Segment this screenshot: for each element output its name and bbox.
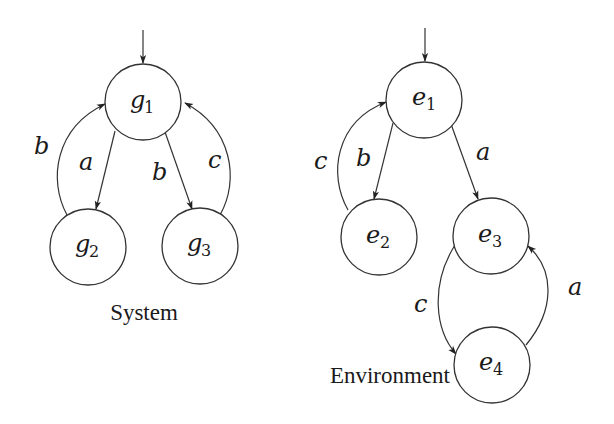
edge-label-e3-e4: c (414, 290, 427, 318)
edge-e1-e3 (451, 124, 478, 199)
edge-label-g1-g3: b (152, 158, 167, 186)
edge-e4-e3 (526, 246, 548, 345)
svg-text:3: 3 (492, 232, 502, 251)
state-e2-label: e (366, 221, 380, 249)
state-e3-label: e (478, 220, 492, 248)
edge-label-g2-g1: b (34, 132, 49, 160)
edge-e3-e4 (438, 245, 456, 354)
state-e4: e 4 (454, 327, 530, 403)
system-automaton: b a b c g 1 g 2 g 3 System (34, 30, 238, 325)
state-g1: g 1 (105, 64, 181, 140)
edge-label-e4-e3: a (568, 273, 582, 301)
svg-text:2: 2 (89, 242, 99, 261)
svg-text:4: 4 (493, 360, 503, 379)
state-g2: g 2 (50, 209, 126, 285)
svg-text:1: 1 (426, 95, 436, 114)
edge-e1-e2 (374, 123, 393, 199)
edge-label-e1-e3: a (476, 138, 490, 166)
state-e1-label: e (412, 83, 426, 111)
automata-diagram: b a b c g 1 g 2 g 3 System c (0, 0, 614, 424)
state-e4-label: e (479, 348, 493, 376)
state-e3: e 3 (453, 198, 529, 274)
edge-label-e2-e1: c (314, 147, 327, 175)
edge-g1-g2 (96, 131, 115, 209)
edge-label-e1-e2: b (356, 144, 371, 172)
state-e2: e 2 (341, 199, 417, 275)
edge-label-g3-g1: c (208, 146, 221, 174)
system-caption: System (110, 300, 178, 325)
svg-text:1: 1 (144, 98, 154, 117)
svg-text:2: 2 (380, 233, 390, 252)
svg-text:3: 3 (201, 241, 211, 260)
environment-automaton: c b a c a e 1 e 2 e 3 e 4 Environment (314, 28, 582, 403)
edge-label-g1-g2: a (79, 148, 93, 176)
edge-g1-g3 (165, 132, 192, 209)
state-e1: e 1 (386, 62, 462, 138)
state-g3: g 3 (162, 208, 238, 284)
environment-caption: Environment (330, 363, 451, 388)
